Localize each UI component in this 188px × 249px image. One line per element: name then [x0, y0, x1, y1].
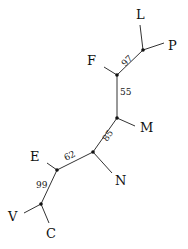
leaf-edge-e: [47, 163, 57, 170]
leaf-label-l: L: [136, 7, 145, 22]
leaf-label-p: P: [168, 38, 177, 53]
support-value-85: 85: [100, 128, 115, 143]
node-e: [55, 168, 59, 172]
leaf-label-f: F: [87, 53, 96, 68]
leaf-edge-f: [104, 67, 117, 75]
node-n: [91, 150, 95, 154]
node-lp: [141, 48, 145, 52]
leaf-edge-m: [117, 118, 135, 126]
leaf-edge-p: [143, 43, 164, 50]
phylogenetic-tree: L P F M N E V C 97 55 85 62 99: [0, 0, 188, 249]
leaf-edge-v: [24, 204, 41, 213]
leaf-label-e: E: [30, 149, 40, 164]
leaf-label-c: C: [46, 226, 56, 241]
node-vc: [39, 202, 43, 206]
leaf-edge-c: [41, 204, 49, 223]
node-f: [115, 73, 119, 77]
node-m: [115, 116, 119, 120]
leaf-label-v: V: [7, 209, 18, 224]
support-value-99: 99: [36, 180, 48, 190]
leaf-label-m: M: [140, 120, 153, 135]
leaf-edge-l: [140, 25, 143, 50]
support-value-55: 55: [120, 87, 132, 97]
leaf-edge-n: [93, 152, 112, 173]
support-value-97: 97: [119, 53, 134, 68]
leaf-label-n: N: [115, 173, 126, 188]
